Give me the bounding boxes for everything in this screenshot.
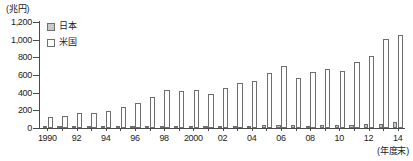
- y-tick-mark: [33, 57, 39, 58]
- x-tick-mark: [354, 128, 355, 131]
- x-tick-label: 1990: [38, 133, 57, 143]
- y-tick-label: 0: [27, 124, 32, 133]
- y-tick-mark: [33, 110, 39, 111]
- bar-usa: [267, 73, 272, 128]
- bar-japan: [291, 125, 295, 128]
- x-tick-label: 08: [305, 133, 314, 143]
- x-tick-label: 04: [247, 133, 256, 143]
- bar-usa: [281, 66, 286, 128]
- bar-japan: [306, 126, 310, 128]
- x-tick-label: 94: [101, 133, 110, 143]
- bar-usa: [325, 69, 330, 128]
- bar-japan: [116, 126, 120, 128]
- x-tick-mark: [62, 128, 63, 131]
- bar-japan: [393, 122, 397, 128]
- x-tick-mark: [369, 128, 370, 131]
- bar-japan: [320, 125, 324, 128]
- x-tick-label: 92: [72, 133, 81, 143]
- x-tick-label: 98: [159, 133, 168, 143]
- bar-usa: [340, 71, 345, 128]
- plot-area: [40, 22, 405, 128]
- bar-japan: [145, 126, 149, 128]
- y-tick-mark: [33, 93, 39, 94]
- y-tick-label: 1,200: [11, 18, 32, 27]
- x-tick-mark: [106, 128, 107, 131]
- bar-japan: [203, 126, 207, 128]
- legend-label-japan: 日本: [59, 22, 77, 31]
- bar-usa: [121, 107, 126, 128]
- x-tick-mark: [47, 128, 48, 131]
- bar-japan: [87, 126, 91, 128]
- x-tick-label: 10: [335, 133, 344, 143]
- x-tick-mark: [339, 128, 340, 131]
- legend-item-japan: 日本: [47, 20, 77, 33]
- bar-chart: (兆円) 02004006008001,0001,200 19909294969…: [0, 0, 413, 161]
- x-tick-mark: [398, 128, 399, 131]
- x-tick-mark: [325, 128, 326, 131]
- y-tick-label: 600: [18, 71, 32, 80]
- bar-japan: [160, 126, 164, 128]
- x-tick-label: 12: [364, 133, 373, 143]
- legend: 日本 米国: [47, 20, 77, 52]
- y-tick-mark: [33, 75, 39, 76]
- x-tick-mark: [266, 128, 267, 131]
- bar-usa: [164, 90, 169, 128]
- x-tick-mark: [296, 128, 297, 131]
- x-tick-mark: [77, 128, 78, 131]
- bar-usa: [77, 113, 82, 128]
- x-tick-mark: [281, 128, 282, 131]
- y-tick-label: 200: [18, 106, 32, 115]
- bar-usa: [208, 94, 213, 128]
- bar-usa: [252, 81, 257, 128]
- bar-japan: [364, 124, 368, 128]
- bar-japan: [218, 126, 222, 128]
- bar-japan: [130, 126, 134, 128]
- bar-japan: [57, 126, 61, 128]
- bar-usa: [223, 88, 228, 128]
- bar-usa: [106, 111, 111, 128]
- bar-japan: [262, 125, 266, 128]
- bar-usa: [237, 83, 242, 128]
- x-tick-mark: [164, 128, 165, 131]
- bar-japan: [379, 124, 383, 128]
- x-tick-mark: [223, 128, 224, 131]
- x-tick-mark: [310, 128, 311, 131]
- bar-usa: [135, 103, 140, 128]
- bar-usa: [48, 117, 53, 128]
- bar-japan: [349, 125, 353, 128]
- bar-japan: [247, 126, 251, 128]
- x-tick-mark: [179, 128, 180, 131]
- bar-usa: [179, 91, 184, 128]
- bar-japan: [43, 126, 47, 128]
- bar-usa: [150, 97, 155, 128]
- bar-japan: [335, 125, 339, 128]
- bar-japan: [233, 126, 237, 128]
- bar-usa: [194, 90, 199, 128]
- bar-japan: [174, 126, 178, 128]
- bar-usa: [354, 62, 359, 128]
- bar-usa: [369, 56, 374, 128]
- x-tick-mark: [193, 128, 194, 131]
- x-tick-mark: [120, 128, 121, 131]
- y-tick-mark: [33, 128, 39, 129]
- bar-usa: [398, 35, 403, 128]
- legend-swatch-japan-icon: [47, 23, 55, 31]
- bar-usa: [383, 39, 388, 128]
- bar-usa: [91, 113, 96, 128]
- x-tick-mark: [135, 128, 136, 131]
- x-tick-mark: [383, 128, 384, 131]
- x-tick-label: 02: [218, 133, 227, 143]
- x-tick-label: 06: [276, 133, 285, 143]
- bar-usa: [296, 78, 301, 128]
- bar-japan: [189, 126, 193, 128]
- y-tick-mark: [33, 22, 39, 23]
- bar-japan: [72, 126, 76, 128]
- bar-japan: [276, 125, 280, 128]
- x-tick-label: 14: [393, 133, 402, 143]
- x-tick-label: 96: [130, 133, 139, 143]
- x-tick-mark: [252, 128, 253, 131]
- x-axis-caption: (年度末): [377, 146, 409, 156]
- x-tick-mark: [150, 128, 151, 131]
- bar-usa: [62, 116, 67, 128]
- y-tick-label: 400: [18, 89, 32, 98]
